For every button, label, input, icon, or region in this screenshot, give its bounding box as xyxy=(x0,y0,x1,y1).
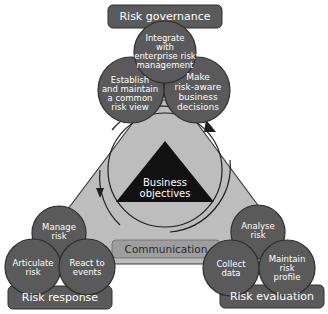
circle-maintain xyxy=(259,240,315,296)
circle-articulate xyxy=(5,239,61,295)
circle-collect xyxy=(203,240,259,296)
circle-integrate xyxy=(134,21,196,83)
diagram-canvas xyxy=(0,0,328,314)
communication-bar xyxy=(112,240,220,258)
circle-react xyxy=(59,239,115,295)
